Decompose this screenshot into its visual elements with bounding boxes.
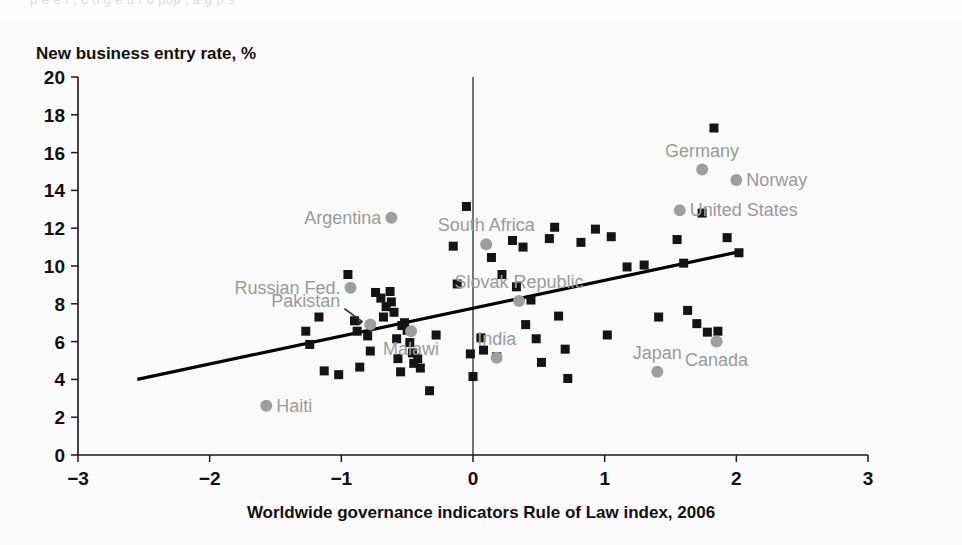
data-point-square [390, 308, 399, 317]
data-point-square [353, 327, 362, 336]
data-point-highlight [651, 366, 663, 378]
data-point-square [334, 370, 343, 379]
axis-titles-group: New business entry rate, %Worldwide gove… [36, 44, 715, 522]
data-point-highlight [674, 204, 686, 216]
data-point-highlight [405, 325, 417, 337]
y-tick-label: 20 [44, 67, 65, 88]
x-tick-label: 2 [731, 468, 742, 489]
x-tick-label: 0 [468, 468, 479, 489]
y-tick-label: 6 [54, 332, 65, 353]
data-point-square [554, 312, 563, 321]
y-tick-label: 14 [44, 180, 66, 201]
data-point-square [432, 330, 441, 339]
data-point-square [466, 349, 475, 358]
country-label: Argentina [304, 208, 382, 228]
data-point-square [462, 202, 471, 211]
data-point-highlight [385, 212, 397, 224]
data-point-square [537, 358, 546, 367]
data-point-highlight [480, 238, 492, 250]
y-tick-label: 12 [44, 218, 65, 239]
country-label: Canada [685, 350, 749, 370]
data-point-square [640, 261, 649, 270]
country-label: Pakistan [271, 291, 340, 311]
data-point-square [469, 372, 478, 381]
data-point-square [683, 306, 692, 315]
y-tick-label: 0 [54, 445, 65, 466]
data-point-square [376, 294, 385, 303]
scatter-plot-svg: 02468101214161820−3−2−10123 ArgentinaRus… [0, 0, 962, 545]
y-axis-title: New business entry rate, % [36, 44, 256, 63]
data-point-square [301, 327, 310, 336]
y-tick-label: 2 [54, 407, 65, 428]
y-tick-label: 16 [44, 143, 65, 164]
x-tick-label: −3 [67, 468, 89, 489]
data-point-square [386, 287, 395, 296]
data-point-square [623, 262, 632, 271]
data-point-square [673, 235, 682, 244]
data-point-square [416, 364, 425, 373]
country-label: Haiti [276, 396, 312, 416]
x-tick-label: −2 [199, 468, 221, 489]
data-point-square [607, 232, 616, 241]
data-point-square [713, 327, 722, 336]
data-point-square [379, 313, 388, 322]
data-point-square [563, 374, 572, 383]
country-label: Germany [665, 141, 739, 161]
data-point-square [591, 225, 600, 234]
data-point-square [654, 313, 663, 322]
data-point-square [519, 243, 528, 252]
data-point-square [425, 386, 434, 395]
y-tick-label: 8 [54, 294, 65, 315]
data-point-square [343, 270, 352, 279]
country-label: South Africa [438, 215, 536, 235]
data-point-square [387, 297, 396, 306]
data-point-square [305, 340, 314, 349]
data-point-square [366, 347, 375, 356]
data-point-square [487, 253, 496, 262]
data-point-square [532, 334, 541, 343]
data-point-square [314, 313, 323, 322]
data-point-square [703, 328, 712, 337]
data-point-square [355, 363, 364, 372]
data-point-highlight [260, 400, 272, 412]
data-point-highlight [730, 174, 742, 186]
country-label: Malawi [383, 339, 439, 359]
data-point-square [679, 259, 688, 268]
x-axis-title: Worldwide governance indicators Rule of … [247, 503, 715, 522]
country-label: India [477, 329, 517, 349]
data-point-highlight [345, 282, 357, 294]
data-point-square [545, 234, 554, 243]
data-point-square [526, 296, 535, 305]
data-point-square [320, 366, 329, 375]
y-tick-label: 4 [54, 369, 65, 390]
data-point-square [576, 238, 585, 247]
x-tick-label: −1 [330, 468, 352, 489]
country-label: Norway [746, 170, 807, 190]
data-point-square [734, 248, 743, 257]
data-point-square [692, 319, 701, 328]
data-point-highlight [696, 164, 708, 176]
data-point-highlight [491, 352, 503, 364]
chart-figure: p e e t , c u g e u f o pop , a g p s 02… [0, 0, 962, 545]
x-tick-label: 1 [599, 468, 610, 489]
data-point-square [521, 320, 530, 329]
data-point-square [603, 330, 612, 339]
data-point-square [363, 331, 372, 340]
data-point-square [396, 367, 405, 376]
data-point-highlight [711, 336, 723, 348]
data-point-square [449, 242, 458, 251]
data-point-square [508, 236, 517, 245]
x-tick-label: 3 [863, 468, 874, 489]
data-point-square [723, 233, 732, 242]
data-point-highlight [364, 319, 376, 331]
country-label: Japan [633, 343, 682, 363]
data-point-square [561, 345, 570, 354]
y-tick-label: 10 [44, 256, 65, 277]
y-tick-label: 18 [44, 105, 65, 126]
country-label: Slovak Republic [455, 272, 584, 292]
country-label: United States [690, 200, 798, 220]
data-point-square [709, 124, 718, 133]
data-point-highlight [513, 295, 525, 307]
data-point-square [550, 223, 559, 232]
